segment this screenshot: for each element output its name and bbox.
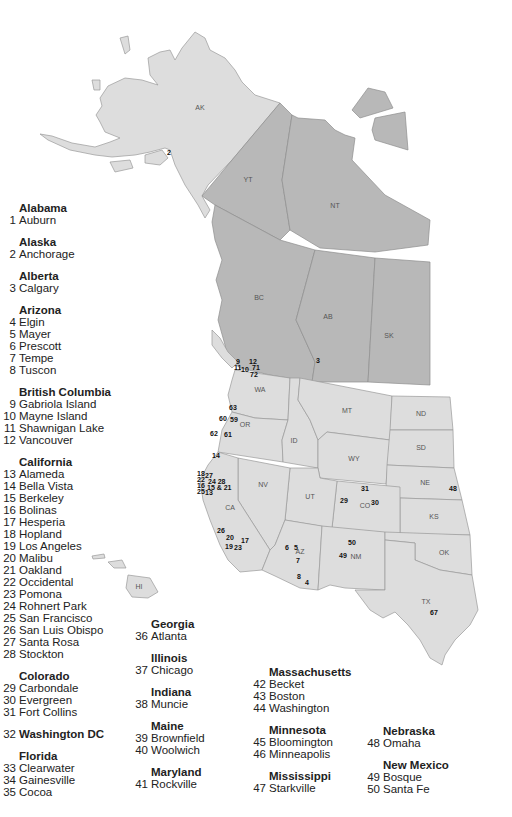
legend-group-new-mexico: New Mexico 49Bosque 50Santa Fe (366, 759, 449, 795)
marker-20: 20 (226, 534, 234, 541)
legend-group-alberta: Alberta 3Calgary (2, 270, 111, 294)
marker-62: 62 (210, 430, 218, 437)
label-nm: NM (351, 553, 362, 560)
legend-state: Indiana (134, 686, 205, 698)
label-id: ID (291, 437, 298, 444)
legend-city: 37Chicago (134, 664, 205, 676)
legend-group-nebraska: Nebraska 48Omaha (366, 725, 449, 749)
legend-state: Massachusetts (252, 666, 351, 678)
legend-group-minnesota: Minnesota 45Bloomington 46Minneapolis (252, 724, 351, 760)
legend-state: Alabama (2, 202, 111, 214)
legend-city: 16Bolinas (2, 504, 111, 516)
legend-group-maryland: Maryland 41Rockville (134, 766, 205, 790)
legend-city: 17Hesperia (2, 516, 111, 528)
marker-14: 14 (212, 452, 220, 459)
label-yt: YT (244, 176, 254, 183)
legend-state: Nebraska (366, 725, 449, 737)
marker-30: 30 (371, 499, 379, 506)
marker-23: 23 (234, 544, 242, 551)
legend-city: 30Evergreen (2, 694, 111, 706)
legend-state: Alaska (2, 236, 111, 248)
legend-city: 45Bloomington (252, 736, 351, 748)
label-ab: AB (323, 313, 333, 320)
legend-group-arizona: Arizona 4Elgin 5Mayer 6Prescott 7Tempe 8… (2, 304, 111, 376)
legend-state: Colorado (2, 670, 111, 682)
region-nt-island (352, 88, 393, 118)
legend-city: 7Tempe (2, 352, 111, 364)
label-ut: UT (305, 493, 315, 500)
label-wy: WY (348, 455, 360, 462)
region-alaska-island (92, 80, 100, 90)
label-nd: ND (416, 410, 426, 417)
legend-group-maine: Maine 39Brownfield 40Woolwich (134, 720, 205, 756)
marker-67: 67 (430, 609, 438, 616)
legend-city: 49Bosque (366, 771, 449, 783)
label-ne: NE (420, 479, 430, 486)
marker-7: 7 (296, 557, 300, 564)
legend-city: 14Bella Vista (2, 480, 111, 492)
marker-17: 17 (241, 537, 249, 544)
legend-state: Maryland (134, 766, 205, 778)
marker-4: 4 (305, 579, 309, 586)
marker-13: 13 (205, 489, 213, 496)
legend-city: 19Los Angeles (2, 540, 111, 552)
region-alaska-island (120, 36, 130, 54)
label-or: OR (240, 421, 251, 428)
region-washington (228, 370, 290, 420)
legend-city: 28Stockton (2, 648, 111, 660)
label-ca: CA (225, 504, 235, 511)
label-nv: NV (258, 481, 268, 488)
legend-city: 47Starkville (252, 782, 351, 794)
legend-group-indiana: Indiana 38Muncie (134, 686, 205, 710)
legend-group-alaska: Alaska 2Anchorage (2, 236, 111, 260)
label-bc: BC (254, 294, 264, 301)
legend-group-british-columbia: British Columbia 9Gabriola Island 10Mayn… (2, 386, 111, 446)
legend-group-colorado: Colorado 29Carbondale 30Evergreen 31Fort… (2, 670, 111, 718)
marker-63: 63 (229, 404, 237, 411)
legend-city: 26San Luis Obispo (2, 624, 111, 636)
legend-column-2: Georgia 36Atlanta Illinois 37Chicago Ind… (134, 618, 205, 800)
label-tx: TX (422, 598, 431, 605)
label-mt: MT (342, 407, 353, 414)
legend-city: 25San Francisco (2, 612, 111, 624)
legend-state: British Columbia (2, 386, 111, 398)
legend-city: 2Anchorage (2, 248, 111, 260)
region-northwest-territories (282, 115, 430, 252)
marker-50: 50 (348, 539, 356, 546)
legend-group-mississippi: Mississippi 47Starkville (252, 770, 351, 794)
region-nt-island (372, 112, 408, 150)
marker-72: 72 (250, 371, 258, 378)
legend-city: 31Fort Collins (2, 706, 111, 718)
legend-city: 12Vancouver (2, 434, 111, 446)
label-nt: NT (330, 202, 340, 209)
marker-5: 5 (294, 544, 298, 551)
marker-26: 26 (217, 527, 225, 534)
legend-city: 29Carbondale (2, 682, 111, 694)
legend-state: Arizona (2, 304, 111, 316)
marker-6: 6 (285, 544, 289, 551)
legend-city: 50Santa Fe (366, 783, 449, 795)
legend-group-florida: Florida 33Clearwater 34Gainesville 35Coc… (2, 750, 111, 798)
marker-29: 29 (340, 497, 348, 504)
marker-3: 3 (316, 357, 320, 364)
legend-city: 9Gabriola Island (2, 398, 111, 410)
legend-state: Georgia (134, 618, 205, 630)
label-hi: HI (136, 583, 143, 590)
marker-60: 60 (219, 415, 227, 422)
legend-group-washington-dc: 32Washington DC (2, 728, 111, 740)
label-wa: WA (254, 386, 265, 393)
legend-city: 10Mayne Island (2, 410, 111, 422)
legend-city: 33Clearwater (2, 762, 111, 774)
legend-city: 34Gainesville (2, 774, 111, 786)
label-sd: SD (416, 444, 426, 451)
marker-2: 2 (167, 149, 171, 156)
legend-city: 18Hopland (2, 528, 111, 540)
legend-city: 41Rockville (134, 778, 205, 790)
legend-state: Mississippi (252, 770, 351, 782)
legend-city: 13Alameda (2, 468, 111, 480)
marker-48: 48 (449, 485, 457, 492)
legend-state: Florida (2, 750, 111, 762)
legend-city: 46Minneapolis (252, 748, 351, 760)
legend-city: 35Cocoa (2, 786, 111, 798)
legend-state: California (2, 456, 111, 468)
